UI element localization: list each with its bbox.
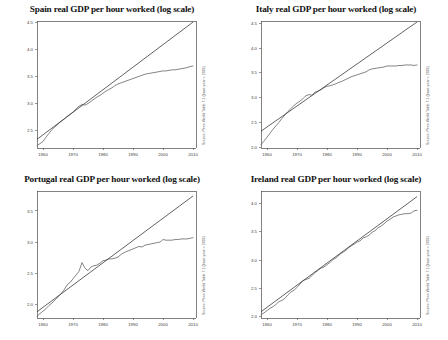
x-tick-label: 1970 [292, 322, 302, 327]
y-tick-label: 2.5 [251, 120, 258, 125]
plot-area: 2.53.03.54.04.5196019701980199020002010S… [0, 0, 224, 170]
x-tick-label: 1990 [128, 322, 138, 327]
y-tick-label: 2.0 [251, 314, 258, 319]
x-tick-label: 1980 [98, 152, 108, 157]
y-tick-label: 2.5 [27, 271, 34, 276]
y-tick-label: 2.5 [251, 286, 258, 291]
y-tick-label: 3.5 [27, 74, 34, 79]
chart-panel: Portugal real GDP per hour worked (log s… [0, 170, 224, 340]
y-tick-label: 2.5 [27, 128, 34, 133]
x-tick-label: 2000 [158, 152, 168, 157]
x-tick-label: 1990 [128, 152, 138, 157]
source-note: Source: Penn World Table 7.1 (base year … [202, 66, 206, 145]
y-tick-label: 2.0 [27, 302, 34, 307]
x-tick-label: 1970 [292, 152, 302, 157]
x-tick-label: 1970 [68, 152, 78, 157]
data-series-line [37, 66, 193, 145]
x-tick-label: 1960 [262, 152, 272, 157]
x-tick-label: 1970 [68, 322, 78, 327]
chart-panel-grid: Spain real GDP per hour worked (log scal… [0, 0, 448, 340]
y-tick-label: 4.0 [251, 201, 258, 206]
plot-area: 2.02.53.03.5196019701980199020002010Sour… [0, 170, 224, 340]
source-note: Source: Penn World Table 7.1 (base year … [426, 236, 430, 315]
y-tick-label: 3.0 [27, 240, 34, 245]
y-tick-label: 4.0 [251, 46, 258, 51]
source-note: Source: Penn World Table 7.1 (base year … [426, 66, 430, 145]
chart-panel: Italy real GDP per hour worked (log scal… [224, 0, 448, 170]
trend-line [261, 22, 417, 131]
y-tick-label: 3.0 [251, 258, 258, 263]
trend-line [37, 22, 193, 139]
axis-frame [261, 191, 420, 318]
plot-area: 2.02.53.03.54.04.51960197019801990200020… [224, 0, 448, 170]
chart-panel: Spain real GDP per hour worked (log scal… [0, 0, 224, 170]
y-tick-label: 3.0 [251, 95, 258, 100]
y-tick-label: 3.5 [251, 70, 258, 75]
x-tick-label: 1960 [262, 322, 272, 327]
y-tick-label: 3.5 [251, 229, 258, 234]
x-tick-label: 2010 [412, 322, 422, 327]
x-tick-label: 2010 [188, 322, 198, 327]
x-tick-label: 1980 [322, 152, 332, 157]
data-series-line [261, 210, 417, 314]
x-tick-label: 1980 [322, 322, 332, 327]
x-tick-label: 2010 [412, 152, 422, 157]
x-tick-label: 2000 [158, 322, 168, 327]
x-tick-label: 2000 [382, 152, 392, 157]
x-tick-label: 2000 [382, 322, 392, 327]
x-tick-label: 1960 [38, 152, 48, 157]
chart-panel: Ireland real GDP per hour worked (log sc… [224, 170, 448, 340]
y-tick-label: 4.5 [251, 21, 258, 26]
y-tick-label: 4.5 [27, 20, 34, 25]
axis-frame [37, 191, 196, 318]
data-series-line [37, 238, 193, 316]
y-tick-label: 4.0 [27, 47, 34, 52]
y-tick-label: 2.0 [251, 145, 258, 150]
x-tick-label: 1960 [38, 322, 48, 327]
x-tick-label: 2010 [188, 152, 198, 157]
axis-frame [261, 21, 420, 148]
trend-line [261, 197, 417, 312]
y-tick-label: 3.5 [27, 209, 34, 214]
x-tick-label: 1990 [352, 322, 362, 327]
y-tick-label: 3.0 [27, 101, 34, 106]
trend-line [37, 196, 193, 312]
plot-area: 2.02.53.03.54.0196019701980199020002010S… [224, 170, 448, 340]
x-tick-label: 1980 [98, 322, 108, 327]
source-note: Source: Penn World Table 7.1 (base year … [202, 236, 206, 315]
x-tick-label: 1990 [352, 152, 362, 157]
